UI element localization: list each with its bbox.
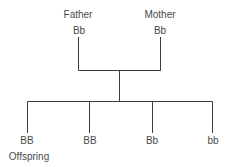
offspring-genotype-3: Bb xyxy=(146,136,158,146)
mother-genotype: Bb xyxy=(154,26,166,36)
offspring-genotype-2: BB xyxy=(83,136,96,146)
offspring-genotype-4: bb xyxy=(207,136,218,146)
father-genotype: Bb xyxy=(73,26,85,36)
offspring-label: Offspring xyxy=(9,152,49,162)
father-label: Father xyxy=(64,10,93,20)
pedigree-lines xyxy=(0,0,227,167)
offspring-genotype-1: BB xyxy=(20,136,33,146)
mother-label: Mother xyxy=(144,10,175,20)
